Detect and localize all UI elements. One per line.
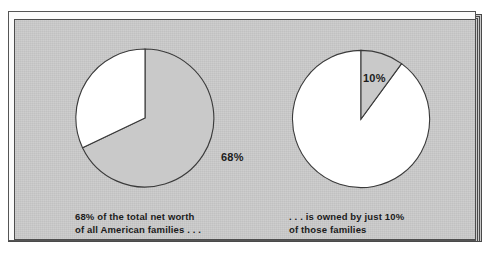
left-pie-chart: 68%: [75, 48, 215, 188]
left-pie-svg: [75, 48, 215, 188]
right-pie-chart: 10%: [289, 48, 435, 190]
right-pie-svg: [289, 48, 435, 190]
chart-panel: 68% 10% 68% of the total net worth of al…: [14, 19, 476, 240]
right-caption-line-1: . . . is owned by just 10%: [289, 210, 404, 223]
right-chart-caption: . . . is owned by just 10% of those fami…: [289, 210, 404, 236]
right-caption-line-2: of those families: [289, 223, 404, 236]
left-pie-value-label: 68%: [221, 151, 244, 163]
left-caption-line-1: 68% of the total net worth: [75, 210, 201, 223]
left-chart-caption: 68% of the total net worth of all Americ…: [75, 210, 201, 236]
right-pie-value-label: 10%: [363, 72, 386, 84]
figure-stage: 68% 10% 68% of the total net worth of al…: [0, 0, 502, 255]
left-caption-line-2: of all American families . . .: [75, 223, 201, 236]
